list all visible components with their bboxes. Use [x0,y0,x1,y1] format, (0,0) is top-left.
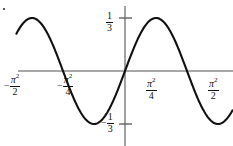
minus-sign: − [101,118,107,128]
fraction-denominator: 2 [11,87,18,97]
fraction-denominator: 4 [148,91,155,101]
fraction-numerator: π2 [10,74,21,85]
fraction-numerator: π2 [208,78,219,89]
minus-sign: − [57,81,63,91]
fraction-denominator: 3 [106,23,113,33]
fraction: 1 3 [106,11,113,33]
fraction-denominator: 2 [210,91,217,101]
x-tick-label-neg-pi-squared-over-2: − π2 2 [4,74,20,97]
fraction-denominator: 4 [64,87,71,97]
fraction-numerator: 1 [107,112,114,122]
y-tick-label-one-third: 1 3 [106,6,113,33]
x-tick-label-neg-pi-squared-over-4: − π2 4 [57,74,73,97]
fraction-numerator: π2 [146,78,157,89]
fraction: π2 4 [63,74,74,97]
fraction: π2 4 [146,78,157,101]
function-graph [0,0,233,146]
fraction: π2 2 [208,78,219,101]
y-tick-label-neg-one-third: − 1 3 [101,112,114,134]
corner-mark [3,8,5,10]
minus-sign: − [4,81,10,91]
fraction-denominator: 3 [107,124,114,134]
x-tick-label-pi-squared-over-4: π2 4 [146,74,157,101]
fraction: 1 3 [107,112,114,134]
x-tick-label-pi-squared-over-2: π2 2 [208,74,219,101]
fraction: π2 2 [10,74,21,97]
fraction-numerator: 1 [106,11,113,21]
fraction-numerator: π2 [63,74,74,85]
